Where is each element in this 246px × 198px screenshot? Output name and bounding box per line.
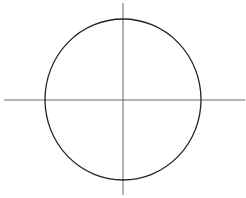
circle-crosshair-diagram bbox=[0, 0, 246, 198]
